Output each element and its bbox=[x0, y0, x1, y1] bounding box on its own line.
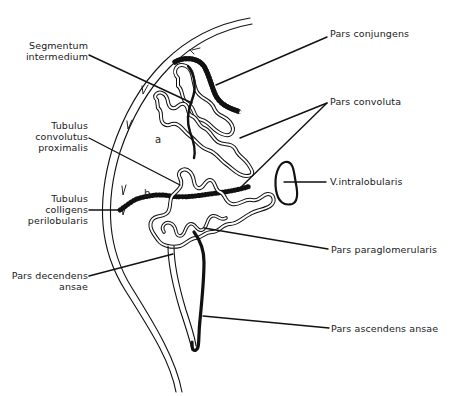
label-pars-decendens-ansae: Pars decendens ansae bbox=[4, 270, 88, 292]
label-segmentum-intermedium: Segmentum intermedium bbox=[4, 40, 88, 62]
flow-arrow-icon bbox=[122, 185, 126, 195]
upper-convoluted-tubule bbox=[175, 65, 233, 135]
label-line: ansae bbox=[4, 281, 88, 292]
nephron-diagram: a b Segmentum intermedium Tubulus convol… bbox=[0, 0, 454, 396]
label-line: Tubulus bbox=[4, 193, 88, 204]
region-label-a: a bbox=[155, 134, 161, 145]
leader-pars-convoluta-2 bbox=[238, 103, 327, 190]
leader-pars-ascendens-ansae bbox=[203, 316, 329, 328]
label-tubulus-colligens-perilobularis: Tubulus colligens perilobularis bbox=[4, 193, 88, 226]
label-pars-paraglomerularis: Pars paraglomerularis bbox=[331, 244, 437, 255]
label-line: Segmentum bbox=[4, 40, 88, 51]
leader-pars-convoluta-1 bbox=[240, 103, 327, 138]
v-intralobularis-shape bbox=[275, 162, 297, 205]
label-line: proximalis bbox=[4, 142, 88, 153]
label-line: colligens bbox=[4, 204, 88, 215]
label-line: intermedium bbox=[4, 51, 88, 62]
pars-descendens-ansae-tube bbox=[168, 246, 192, 350]
label-line: perilobularis bbox=[4, 215, 88, 226]
lower-convoluted-tubule bbox=[150, 170, 273, 247]
label-tubulus-convolutus-proximalis: Tubulus convolutus proximalis bbox=[4, 120, 88, 153]
proximal-convoluted-tubule-upper bbox=[155, 93, 252, 176]
pars-ascendens-ansae-tube bbox=[192, 232, 204, 350]
label-pars-conjungens: Pars conjungens bbox=[330, 28, 409, 39]
leader-pars-conjungens bbox=[216, 37, 327, 85]
leader-tubulus-convolutus-proximalis bbox=[89, 138, 180, 185]
label-v-intralobularis: V.intralobularis bbox=[330, 176, 402, 187]
label-line: Pars decendens bbox=[4, 270, 88, 281]
leader-pars-decendens-ansae bbox=[89, 254, 173, 276]
label-pars-convoluta: Pars convoluta bbox=[330, 96, 401, 107]
leader-pars-paraglomerularis bbox=[204, 228, 328, 249]
label-pars-ascendens-ansae: Pars ascendens ansae bbox=[331, 323, 438, 334]
label-line: convolutus bbox=[4, 131, 88, 142]
label-line: Tubulus bbox=[4, 120, 88, 131]
region-label-b: b bbox=[144, 188, 150, 199]
